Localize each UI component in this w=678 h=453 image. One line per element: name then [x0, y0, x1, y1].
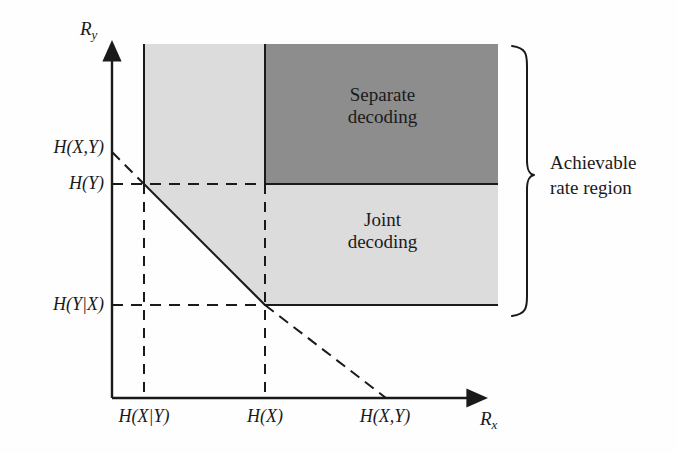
x-tick-label-HX: H(X) [210, 406, 320, 427]
y-axis-label: Ry [80, 18, 97, 42]
separate-decoding-label-line1: Separate [295, 84, 470, 106]
separate-decoding-label: Separate decoding [295, 84, 470, 129]
achievable-rate-region-line2: rate region [550, 175, 637, 200]
y-tick-label-HYgivenX: H(Y|X) [0, 294, 104, 315]
separate-decoding-label-line2: decoding [295, 106, 470, 128]
dashed-slant-extension-lower [265, 305, 386, 398]
figure-container: Ry Rx H(X,Y) H(Y) H(Y|X) H(X|Y) H(X) H(X… [0, 0, 678, 453]
x-axis-subscript: x [492, 417, 498, 432]
y-tick-label-HY: H(Y) [0, 173, 104, 194]
x-axis-label: Rx [480, 408, 497, 432]
joint-decoding-label-line2: decoding [295, 231, 470, 253]
dashed-slant-extension-upper [112, 152, 144, 184]
y-axis-subscript: y [92, 27, 98, 42]
achievable-region-brace [512, 46, 534, 316]
achievable-rate-region-line1: Achievable [550, 150, 637, 175]
y-tick-label-HXY: H(X,Y) [0, 137, 104, 158]
joint-decoding-label-line1: Joint [295, 209, 470, 231]
joint-decoding-label: Joint decoding [295, 209, 470, 254]
x-tick-label-HXgivenY: H(X|Y) [84, 406, 204, 427]
x-tick-label-HXY: H(X,Y) [325, 406, 445, 427]
achievable-rate-region-label: Achievable rate region [550, 150, 637, 200]
